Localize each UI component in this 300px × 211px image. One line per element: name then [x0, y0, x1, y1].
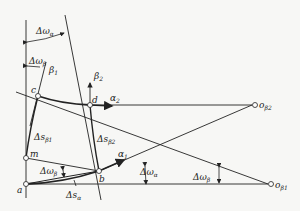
label-point-d: d — [92, 96, 98, 105]
label-delta-omega-alpha-top: Δωα — [36, 27, 54, 37]
point-a — [24, 182, 29, 187]
label-alpha1: α1 — [118, 150, 128, 160]
label-point-b: b — [99, 175, 105, 184]
chord-a-b — [26, 171, 99, 184]
delta-omega-beta-low-arc — [63, 170, 64, 177]
point-c — [36, 94, 41, 99]
label-point-c: c — [31, 86, 36, 95]
label-delta-omega-beta-low: Δωβ — [40, 167, 57, 177]
label-delta-s-alpha: Δsα — [66, 191, 81, 201]
point-b — [97, 169, 102, 174]
label-delta-s-beta2: Δsβ2 — [97, 135, 115, 145]
label-o-beta1: oβ1 — [275, 181, 288, 191]
label-beta2: β2 — [94, 72, 103, 82]
m-to-b-line — [26, 158, 99, 171]
label-point-m: m — [30, 150, 39, 159]
label-delta-omega-alpha-mid: Δωα — [140, 168, 158, 178]
point-o-beta1 — [269, 182, 274, 187]
alpha2-arrow — [90, 105, 112, 106]
label-beta1: β1 — [49, 66, 58, 76]
diagram-canvas: Δωα Δωβ β1 β2 α2 α1 Δsβ1 Δsβ2 Δωβ Δsα Δω… — [0, 0, 300, 211]
label-delta-s-beta1: Δsβ1 — [34, 133, 52, 143]
label-point-a: a — [17, 186, 22, 195]
label-delta-omega-beta-right: Δωβ — [193, 173, 210, 183]
label-delta-omega-beta-left: Δωβ — [29, 57, 46, 67]
label-o-beta2: oβ2 — [259, 101, 272, 111]
alpha1-arrow — [99, 160, 124, 171]
point-o-beta2 — [253, 103, 258, 108]
label-alpha2: α2 — [110, 94, 120, 104]
point-m — [24, 156, 29, 161]
